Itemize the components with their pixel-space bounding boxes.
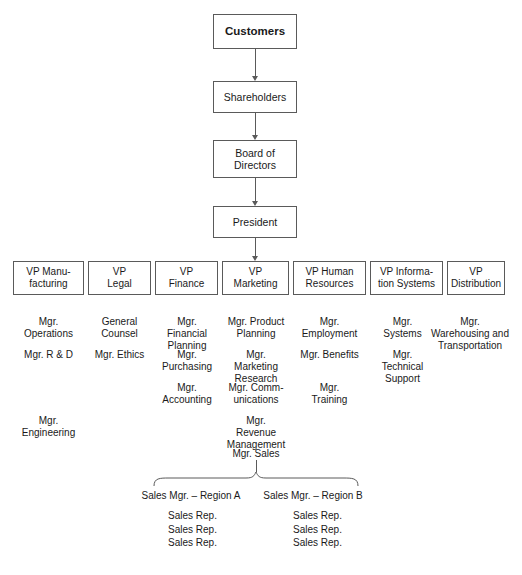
node-president: President	[213, 206, 297, 238]
arrow-head-icon	[252, 256, 258, 261]
arrow-head-icon	[252, 201, 258, 206]
manager-item: Mgr.Operations	[6, 316, 91, 340]
sales-rep-list-region-a: Sales Rep.Sales Rep.Sales Rep.	[145, 509, 240, 550]
connector-spine-1	[255, 113, 256, 135]
vp-label: VPFinance	[169, 266, 205, 290]
node-customers: Customers	[213, 14, 297, 49]
org-chart: CustomersShareholdersBoard ofDirectorsPr…	[0, 0, 522, 575]
vp-box-vpfinance: VPFinance	[155, 261, 218, 295]
connector-president-vp	[255, 238, 256, 256]
sales-rep-item: Sales Rep.	[145, 509, 240, 523]
node-board-of-directors: Board ofDirectors	[213, 140, 297, 178]
vp-box-vp-humanresources: VP HumanResources	[293, 261, 366, 295]
manager-item: Mgr.Engineering	[6, 415, 91, 439]
manager-item: Mgr.TechnicalSupport	[360, 349, 445, 386]
node-label: President	[233, 216, 277, 228]
sales-rep-item: Sales Rep.	[270, 536, 365, 550]
vp-label: VP HumanResources	[305, 266, 353, 290]
vp-label: VP Manu-facturing	[26, 266, 70, 290]
vp-label: VPLegal	[107, 266, 131, 290]
manager-item: Mgr.Training	[287, 382, 372, 406]
manager-item: Mgr.RevenueManagement	[212, 415, 300, 452]
vp-box-vp-informa-tion-systems: VP Informa-tion Systems	[370, 261, 443, 295]
brace-connector	[151, 471, 361, 489]
sales-manager-label-region-b: Sales Mgr. – Region B	[253, 490, 373, 502]
sales-rep-item: Sales Rep.	[145, 523, 240, 537]
manager-item: Mgr.Warehousing andTransportation	[420, 316, 520, 353]
sales-rep-item: Sales Rep.	[270, 523, 365, 537]
node-label: Shareholders	[224, 91, 286, 103]
vp-box-vplegal: VPLegal	[88, 261, 151, 295]
vp-label: VPMarketing	[234, 266, 278, 290]
arrow-head-icon	[252, 135, 258, 140]
node-label: Board ofDirectors	[234, 147, 276, 172]
sales-rep-item: Sales Rep.	[145, 536, 240, 550]
vp-box-vpmarketing: VPMarketing	[222, 261, 289, 295]
manager-item: GeneralCounsel	[82, 316, 157, 340]
sales-rep-item: Sales Rep.	[270, 509, 365, 523]
manager-column-vplegal: GeneralCounselMgr. Ethics	[82, 316, 157, 382]
connector-spine-0	[255, 49, 256, 76]
sales-manager-label-region-a: Sales Mgr. – Region A	[131, 490, 251, 502]
vp-label: VPDistribution	[451, 266, 501, 290]
connector-spine-2	[255, 178, 256, 201]
manager-item: Mgr. Ethics	[82, 349, 157, 361]
manager-column-vpdistribution: Mgr.Warehousing andTransportation	[420, 316, 520, 349]
node-shareholders: Shareholders	[213, 81, 297, 113]
manager-item: Mgr. Sales	[212, 448, 300, 460]
manager-column-vp-manu-facturing: Mgr.OperationsMgr. R & DMgr.Engineering	[6, 316, 91, 448]
vp-box-vpdistribution: VPDistribution	[447, 261, 505, 295]
arrow-head-icon	[252, 76, 258, 81]
node-label: Customers	[225, 25, 285, 39]
sales-rep-list-region-b: Sales Rep.Sales Rep.Sales Rep.	[270, 509, 365, 550]
vp-box-vp-manu-facturing: VP Manu-facturing	[13, 261, 84, 295]
vp-label: VP Informa-tion Systems	[378, 266, 435, 290]
manager-item: Mgr. R & D	[6, 349, 91, 361]
